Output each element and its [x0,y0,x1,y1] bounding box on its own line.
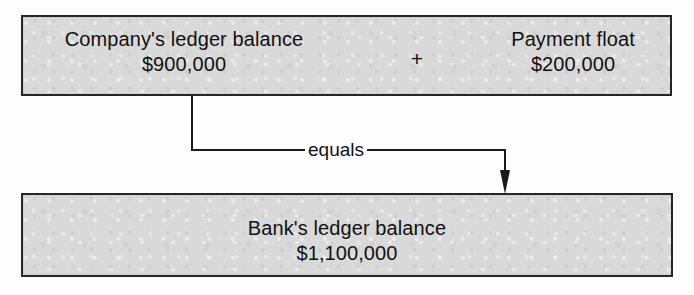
company-ledger-balance-label: Company's ledger balance [34,27,334,52]
company-ledger-balance-amount: $900,000 [34,52,334,77]
company-ledger-balance-cell: Company's ledger balance $900,000 [34,27,334,77]
payment-float-cell: Payment float $200,000 [480,27,666,77]
bank-ledger-balance-amount: $1,100,000 [21,241,673,266]
payment-float-label: Payment float [480,27,666,52]
diagram-canvas: Company's ledger balance $900,000 + Paym… [0,0,694,295]
plus-operator: + [392,46,442,71]
arrowhead-icon [500,170,510,194]
payment-float-amount: $200,000 [480,52,666,77]
equals-label: equals [305,138,367,161]
bank-ledger-balance-cell: Bank's ledger balance $1,100,000 [21,216,673,266]
bank-ledger-balance-label: Bank's ledger balance [21,216,673,241]
